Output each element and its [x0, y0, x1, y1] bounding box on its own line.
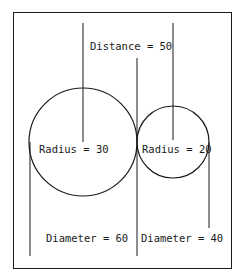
- large-diameter-label: Diameter = 60: [46, 232, 128, 244]
- tangent-circles-diagram: Distance = 50 Radius = 30 Radius = 20 Di…: [0, 0, 240, 276]
- small-diameter-label: Diameter = 40: [141, 232, 223, 244]
- large-radius-label: Radius = 30: [39, 143, 109, 155]
- small-radius-label: Radius = 20: [142, 143, 212, 155]
- distance-label: Distance = 50: [90, 40, 172, 52]
